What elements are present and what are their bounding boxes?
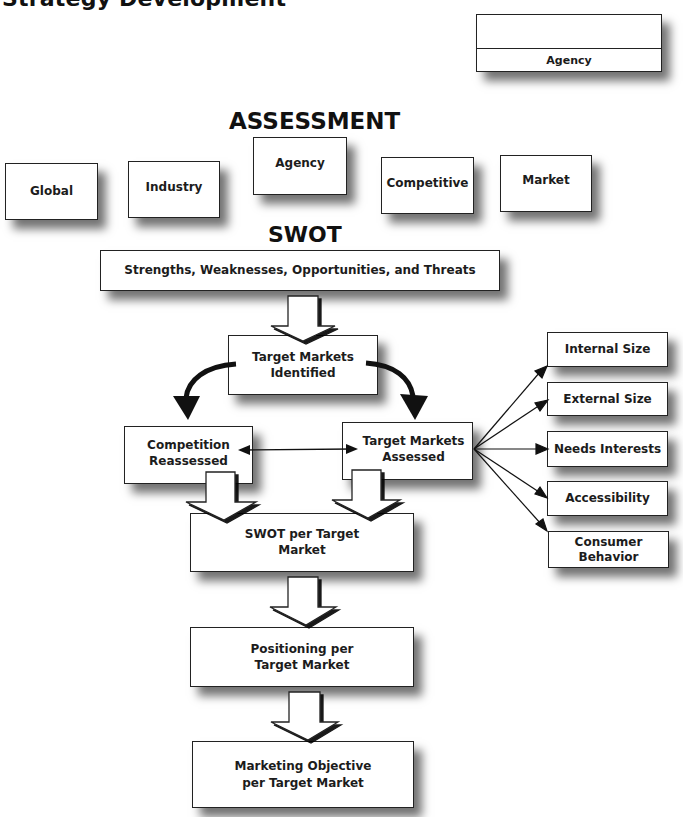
box-label: Accessibility: [565, 490, 650, 506]
box-label: Market: [522, 172, 570, 188]
swot-heading: SWOT: [268, 222, 342, 247]
factor-external-size: External Size: [547, 382, 668, 416]
box-label: Positioning per Target Market: [250, 641, 353, 673]
block-arrow-down-icon: [270, 577, 336, 625]
box-label: Global: [30, 183, 73, 199]
legend-label: Agency: [477, 49, 661, 71]
double-headed-arrow-icon: [238, 444, 358, 455]
arrow-right-icon: [474, 366, 548, 531]
factor-accessibility: Accessibility: [547, 481, 668, 516]
box-label: Target Markets Identified: [252, 349, 354, 381]
curved-arrow-icon: [173, 364, 236, 420]
box-label: SWOT per Target Market: [245, 526, 359, 558]
factor-internal-size: Internal Size: [547, 332, 668, 367]
swot-per-target-market-box: SWOT per Target Market: [190, 513, 414, 572]
assessment-box-market: Market: [500, 155, 592, 212]
assessment-box-competitive: Competitive: [381, 157, 474, 214]
box-label: External Size: [563, 391, 652, 407]
box-label: Marketing Objective per Target Market: [235, 758, 372, 790]
box-label: Industry: [146, 179, 203, 195]
box-label: Consumer Behavior: [575, 535, 643, 565]
swot-bar: Strengths, Weaknesses, Opportunities, an…: [100, 250, 500, 291]
competition-reassessed-box: Competition Reassessed: [124, 426, 253, 484]
box-label: Competition Reassessed: [147, 437, 230, 469]
legend-box: Agency: [476, 14, 662, 72]
block-arrow-down-icon: [271, 692, 338, 740]
box-label: Agency: [275, 155, 325, 171]
box-label: Needs Interests: [554, 441, 661, 457]
assessment-box-industry: Industry: [128, 161, 220, 218]
factor-consumer-behavior: Consumer Behavior: [548, 531, 669, 568]
assessment-heading: ASSESSMENT: [229, 108, 400, 134]
box-label: Internal Size: [565, 341, 651, 357]
swot-bar-label: Strengths, Weaknesses, Opportunities, an…: [124, 262, 475, 278]
legend-blank-cell: [477, 15, 661, 49]
target-markets-assessed-box: Target Markets Assessed: [342, 422, 473, 480]
assessment-box-agency: Agency: [253, 137, 347, 195]
page-title: Strategy Development: [2, 0, 286, 11]
assessment-box-global: Global: [5, 163, 98, 220]
box-label: Target Markets Assessed: [363, 433, 465, 465]
factor-needs-interests: Needs Interests: [547, 431, 668, 467]
target-markets-identified-box: Target Markets Identified: [228, 335, 378, 395]
positioning-box: Positioning per Target Market: [190, 627, 414, 687]
marketing-objective-box: Marketing Objective per Target Market: [192, 741, 414, 808]
box-label: Competitive: [387, 175, 469, 191]
